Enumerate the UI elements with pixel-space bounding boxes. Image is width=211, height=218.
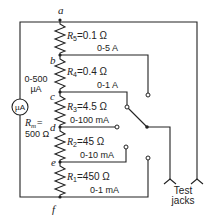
node-e: e (51, 156, 56, 168)
r1-range: 0-1 mA (90, 185, 119, 195)
contact-1ma (146, 156, 150, 160)
r4-range: 0-1 A (97, 80, 118, 90)
r2-range: 0-10 mA (80, 150, 114, 160)
r4-label: R4=0.4 Ω (66, 66, 108, 78)
contact-5a (146, 93, 150, 97)
resistor-r4 (55, 55, 65, 92)
jacks-label-2: jacks (171, 195, 195, 206)
resistor-r5 (55, 20, 65, 55)
resistor-r2 (55, 127, 65, 162)
meter-range-2: µA (30, 84, 41, 94)
switch-arm (128, 108, 147, 127)
switch-pivot (145, 125, 149, 129)
node-f: f (52, 203, 57, 215)
contact-1a (125, 105, 129, 109)
node-d: d (50, 121, 56, 133)
node-c: c (50, 90, 55, 102)
contact-100ma (115, 125, 119, 129)
r3-label: R3=4.5 Ω (66, 101, 108, 113)
r5-range: 0-5 A (97, 43, 118, 53)
r5-label: R5=0.1 Ω (66, 30, 108, 42)
resistor-r3 (55, 92, 65, 127)
node-a: a (58, 4, 64, 16)
resistor-chain (55, 20, 65, 197)
resistor-r1 (55, 162, 65, 197)
node-b: b (50, 54, 56, 66)
contact-10ma (124, 145, 128, 149)
wire-pivot-jack (147, 127, 170, 180)
r3-range: 0-100 mA (70, 115, 109, 125)
r2-label: R2=45 Ω (66, 136, 105, 148)
r1-label: R1=450 Ω (66, 171, 110, 183)
rm-value: 500 Ω (25, 129, 50, 139)
meter-symbol: µA (15, 103, 26, 112)
meter-range-1: 0-500 (24, 74, 47, 84)
circuit-diagram: µA 0-500 µA Rm= 500 Ω a b c d e f R5=0.1… (0, 0, 211, 218)
